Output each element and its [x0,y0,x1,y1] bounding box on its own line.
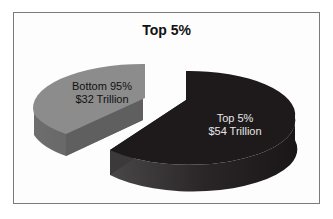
label-top-5: Top 5% $54 Trillion [195,112,275,138]
label-bottom-95: Bottom 95% $32 Trillion [62,80,142,106]
label-bottom-95-name: Bottom 95% [62,80,142,93]
label-top-5-name: Top 5% [195,112,275,125]
pie-chart [0,0,333,219]
label-top-5-value: $54 Trillion [195,125,275,138]
label-bottom-95-value: $32 Trillion [62,93,142,106]
